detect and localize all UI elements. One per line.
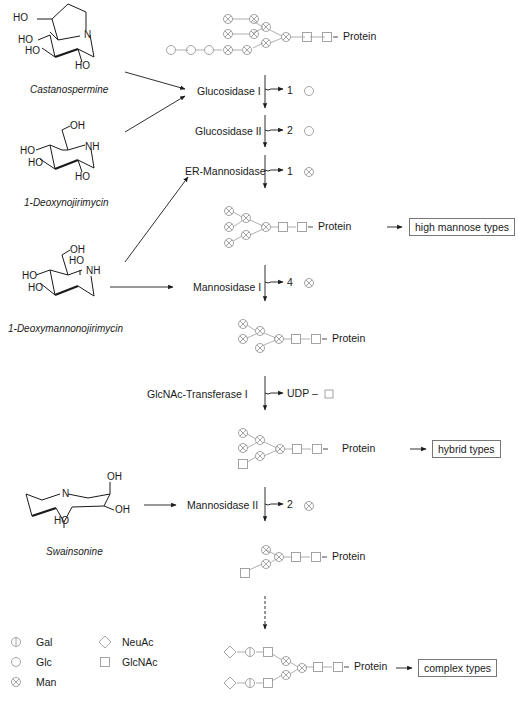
inhibitor-name: 1-Deoxymannonojirimycin <box>8 323 123 334</box>
atom-label: NH <box>86 265 100 276</box>
atom-label: HO <box>18 34 33 45</box>
atom-label: HO <box>20 145 35 156</box>
protein-label: Protein <box>354 660 387 672</box>
atom-label: N <box>84 29 91 40</box>
atom-label: HO <box>22 270 37 281</box>
atom-label: HO <box>25 45 40 56</box>
atom-label: OH <box>107 471 122 482</box>
atom-label: OH <box>70 244 85 255</box>
atom-label: HO <box>28 282 43 293</box>
protein-label: Protein <box>318 220 351 232</box>
legend-gal: Gal <box>36 636 52 648</box>
released-count: 2 <box>287 124 293 136</box>
legend-glcnac: GlcNAc <box>122 656 158 668</box>
atom-label: HO <box>75 60 90 71</box>
swainsonine-structure <box>26 482 114 528</box>
enzyme-mannosidase-1: Mannosidase I <box>193 281 261 293</box>
enzyme-mannosidase-2: Mannosidase II <box>187 499 258 511</box>
protein-label: Protein <box>332 332 365 344</box>
atom-label: HO <box>28 157 43 168</box>
atom-label: N <box>62 488 69 499</box>
process-arrows <box>110 72 426 668</box>
released-count: 4 <box>287 276 293 288</box>
released-udp: UDP – <box>287 387 318 399</box>
inhibitor-name: Swainsonine <box>46 546 103 557</box>
hybrid-types-box: hybrid types <box>432 440 501 458</box>
atom-label: HO <box>75 171 90 182</box>
released-count: 1 <box>287 84 293 96</box>
inhibitor-name: 1-Deoxynojirimycin <box>24 197 108 208</box>
released-count: 2 <box>287 498 293 510</box>
enzyme-glucosidase-1: Glucosidase I <box>197 85 261 97</box>
enzyme-er-mannosidase: ER-Mannosidase <box>185 165 266 177</box>
atom-label: HO <box>54 515 69 526</box>
legend-neuac: NeuAc <box>122 636 154 648</box>
enzyme-glcnac-transferase-1: GlcNAc-Transferase I <box>147 388 248 400</box>
complex-types-box: complex types <box>418 659 497 677</box>
atom-label: NH <box>85 141 99 152</box>
protein-label: Protein <box>332 550 365 562</box>
legend-man: Man <box>36 676 56 688</box>
glycan-processing-diagram <box>0 0 518 702</box>
protein-label: Protein <box>342 442 375 454</box>
released-count: 1 <box>287 165 293 177</box>
atom-label: OH <box>115 504 130 515</box>
inhibitor-name: Castanospermine <box>30 84 108 95</box>
atom-label: HO <box>69 255 84 266</box>
high-mannose-types-box: high mannose types <box>409 218 515 236</box>
atom-label: HO <box>13 12 28 23</box>
legend-glc: Glc <box>36 656 52 668</box>
atom-label: OH <box>70 120 85 131</box>
protein-label: Protein <box>343 30 376 42</box>
enzyme-glucosidase-2: Glucosidase II <box>195 125 262 137</box>
